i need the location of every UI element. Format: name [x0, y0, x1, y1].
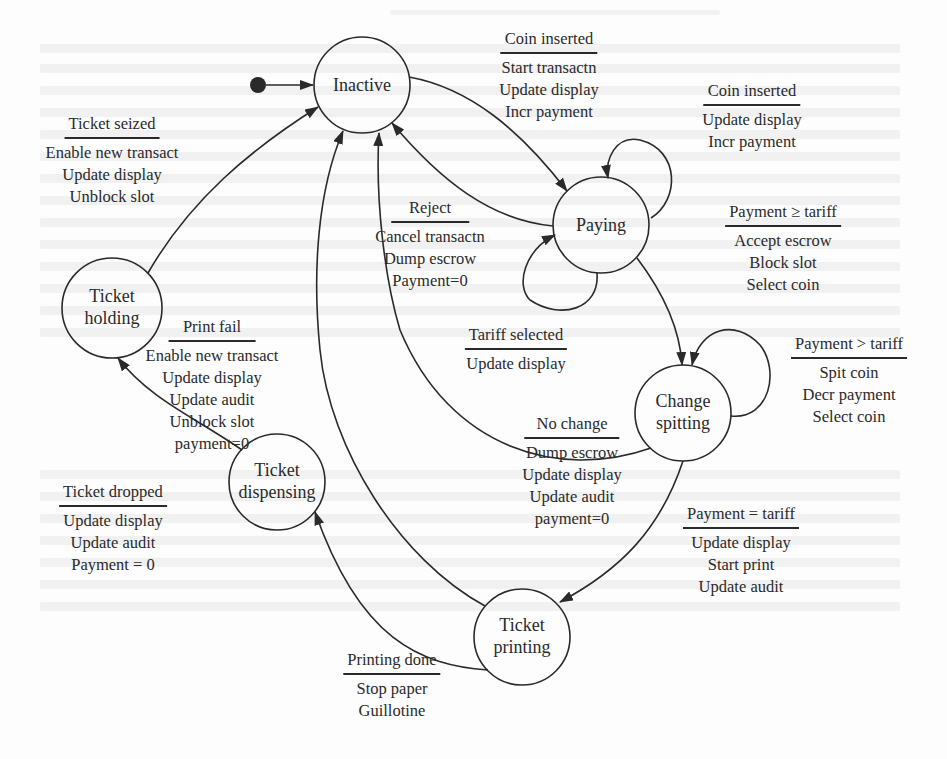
action-text: Block slot [725, 252, 841, 274]
state-dispensing-label-1: Ticket [254, 460, 299, 480]
label-payment-gt-tariff: Payment > tariff Spit coin Decr payment … [791, 333, 907, 428]
event-text: Coin inserted [704, 80, 800, 106]
action-text: Payment = 0 [59, 554, 167, 576]
action-text: Select coin [725, 274, 841, 296]
label-print-fail: Print fail Enable new transact Update di… [146, 316, 279, 455]
state-change-label-1: Change [656, 391, 711, 411]
action-text: Update display [683, 532, 799, 554]
action-text: Incr payment [702, 131, 801, 153]
label-no-change: No change Dump escrow Update display Upd… [522, 413, 621, 530]
label-payment-ge-tariff: Payment ≥ tariff Accept escrow Block slo… [725, 201, 841, 296]
state-holding-label-1: Ticket [89, 286, 134, 306]
action-text: Decr payment [791, 384, 907, 406]
action-text: Stop paper [343, 678, 440, 700]
action-text: Update display [59, 510, 167, 532]
initial-state-marker [250, 77, 313, 93]
action-text: Update display [499, 79, 598, 101]
label-printing-done: Printing done Stop paper Guillotine [343, 649, 440, 722]
label-ticket-dropped: Ticket dropped Update display Update aud… [59, 481, 167, 576]
action-text: Guillotine [343, 700, 440, 722]
state-change-label-2: spitting [656, 413, 710, 433]
action-text: Update display [522, 464, 621, 486]
action-text: Dump escrow [375, 248, 485, 270]
action-text: Update audit [522, 486, 621, 508]
transition-change-to-inactive-nochange [378, 133, 651, 460]
event-text: Print fail [169, 316, 255, 342]
transition-paying-to-change [637, 258, 682, 365]
transition-paying-self-tariff [523, 235, 597, 310]
label-ticket-seized: Ticket seized Enable new transact Update… [46, 113, 179, 208]
action-text: Unblock slot [46, 186, 179, 208]
action-text: payment=0 [522, 508, 621, 530]
state-printing-label-1: Ticket [499, 615, 544, 635]
action-text: payment=0 [146, 433, 279, 455]
action-text: Dump escrow [522, 442, 621, 464]
action-text: Update audit [59, 532, 167, 554]
label-coin-inserted-self: Coin inserted Update display Incr paymen… [702, 80, 801, 153]
event-text: Ticket seized [65, 113, 160, 139]
label-tariff-selected: Tariff selected Update display [465, 324, 567, 375]
action-text: Enable new transact [146, 345, 279, 367]
state-holding-label-2: holding [84, 308, 139, 328]
state-printing-label-2: printing [494, 637, 551, 657]
event-text: Payment ≥ tariff [725, 201, 841, 227]
event-text: Payment = tariff [683, 503, 799, 529]
label-payment-eq-tariff: Payment = tariff Update display Start pr… [683, 503, 799, 598]
state-paying-label: Paying [576, 215, 626, 235]
event-text: No change [524, 413, 619, 439]
event-text: Payment > tariff [791, 333, 907, 359]
event-text: Printing done [343, 649, 440, 675]
action-text: Update display [146, 367, 279, 389]
event-text: Ticket dropped [59, 481, 167, 507]
action-text: Start print [683, 554, 799, 576]
action-text: Unblock slot [146, 411, 279, 433]
transition-paying-self-coin [607, 139, 671, 218]
state-dispensing-label-2: dispensing [238, 482, 315, 502]
action-text: Update display [46, 164, 179, 186]
action-text: Cancel transactn [375, 226, 485, 248]
event-text: Coin inserted [501, 28, 597, 54]
label-reject: Reject Cancel transactn Dump escrow Paym… [375, 197, 485, 292]
action-text: Enable new transact [46, 142, 179, 164]
event-text: Tariff selected [465, 324, 567, 350]
action-text: Update display [465, 353, 567, 375]
action-text: Start transactn [499, 57, 598, 79]
action-text: Spit coin [791, 362, 907, 384]
action-text: Update audit [683, 576, 799, 598]
event-text: Reject [391, 197, 469, 223]
page-background: Inactive Paying Ticket holding Change sp… [0, 0, 947, 759]
action-text: Update audit [146, 389, 279, 411]
action-text: Select coin [791, 406, 907, 428]
state-inactive-label: Inactive [333, 75, 391, 95]
action-text: Accept escrow [725, 230, 841, 252]
action-text: Incr payment [499, 101, 598, 123]
label-coin-inserted-start: Coin inserted Start transactn Update dis… [499, 28, 598, 123]
action-text: Payment=0 [375, 270, 485, 292]
action-text: Update display [702, 109, 801, 131]
